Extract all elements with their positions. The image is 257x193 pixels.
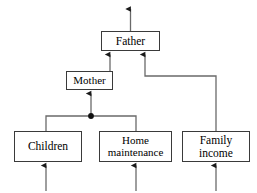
node-home-maintenance-label: Home maintenance [108,135,164,159]
node-home-maintenance: Home maintenance [99,131,172,162]
junction-dot [88,113,94,119]
edge-family-income-to-father [145,55,216,132]
node-mother: Mother [66,71,113,90]
edge-home-to-junction [91,116,136,131]
node-family-income-label: Family income [199,134,233,159]
node-children: Children [14,131,82,162]
node-father: Father [101,31,160,51]
edge-children-to-junction [46,116,91,131]
diagram-connectors [0,0,257,193]
diagram-canvas: Father Mother Children Home maintenance … [0,0,257,193]
node-children-label: Children [28,140,68,152]
node-father-label: Father [116,35,145,47]
node-mother-label: Mother [73,75,105,87]
node-family-income: Family income [182,131,250,162]
